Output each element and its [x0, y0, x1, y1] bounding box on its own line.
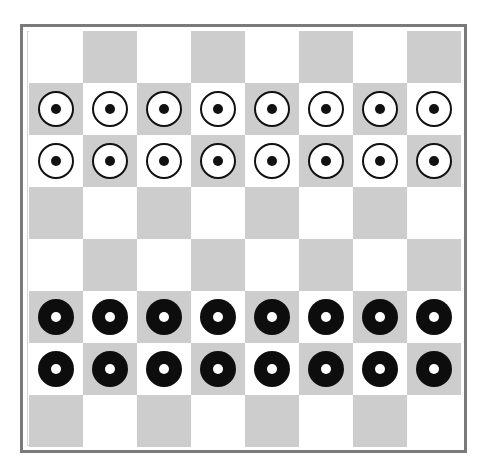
- board-square-r1-c7[interactable]: [407, 83, 461, 135]
- board-square-r3-c3[interactable]: [191, 187, 245, 239]
- black-piece-icon[interactable]: [38, 299, 74, 335]
- black-piece-icon[interactable]: [200, 351, 236, 387]
- board-square-r1-c2[interactable]: [137, 83, 191, 135]
- board-square-r0-c4[interactable]: [245, 31, 299, 83]
- board-square-r0-c7[interactable]: [407, 31, 461, 83]
- board-square-r4-c5[interactable]: [299, 239, 353, 291]
- black-piece-icon[interactable]: [362, 351, 398, 387]
- board-square-r5-c7[interactable]: [407, 291, 461, 343]
- white-piece-icon[interactable]: [38, 91, 74, 127]
- board-square-r3-c4[interactable]: [245, 187, 299, 239]
- black-piece-icon[interactable]: [416, 299, 452, 335]
- board-square-r7-c0[interactable]: [29, 395, 83, 447]
- white-piece-icon[interactable]: [200, 91, 236, 127]
- black-piece-icon[interactable]: [146, 299, 182, 335]
- black-piece-icon[interactable]: [254, 299, 290, 335]
- board-square-r7-c3[interactable]: [191, 395, 245, 447]
- board-square-r2-c1[interactable]: [83, 135, 137, 187]
- board-square-r6-c7[interactable]: [407, 343, 461, 395]
- game-board: [29, 31, 461, 447]
- white-piece-icon[interactable]: [308, 143, 344, 179]
- board-square-r1-c1[interactable]: [83, 83, 137, 135]
- board-square-r3-c1[interactable]: [83, 187, 137, 239]
- board-square-r7-c5[interactable]: [299, 395, 353, 447]
- white-piece-icon[interactable]: [362, 91, 398, 127]
- board-square-r1-c5[interactable]: [299, 83, 353, 135]
- board-square-r6-c3[interactable]: [191, 343, 245, 395]
- board-square-r7-c4[interactable]: [245, 395, 299, 447]
- white-piece-icon[interactable]: [416, 91, 452, 127]
- board-square-r2-c7[interactable]: [407, 135, 461, 187]
- board-square-r4-c3[interactable]: [191, 239, 245, 291]
- black-piece-icon[interactable]: [200, 299, 236, 335]
- white-piece-icon[interactable]: [92, 143, 128, 179]
- board-square-r0-c6[interactable]: [353, 31, 407, 83]
- board-square-r5-c1[interactable]: [83, 291, 137, 343]
- black-piece-icon[interactable]: [308, 351, 344, 387]
- board-square-r7-c7[interactable]: [407, 395, 461, 447]
- board-square-r3-c2[interactable]: [137, 187, 191, 239]
- board-square-r2-c2[interactable]: [137, 135, 191, 187]
- board-square-r7-c6[interactable]: [353, 395, 407, 447]
- white-piece-icon[interactable]: [416, 143, 452, 179]
- black-piece-icon[interactable]: [146, 351, 182, 387]
- white-piece-icon[interactable]: [92, 91, 128, 127]
- board-square-r6-c2[interactable]: [137, 343, 191, 395]
- black-piece-icon[interactable]: [362, 299, 398, 335]
- board-square-r2-c6[interactable]: [353, 135, 407, 187]
- board-square-r5-c6[interactable]: [353, 291, 407, 343]
- board-square-r7-c2[interactable]: [137, 395, 191, 447]
- board-square-r1-c4[interactable]: [245, 83, 299, 135]
- board-square-r5-c3[interactable]: [191, 291, 245, 343]
- black-piece-icon[interactable]: [92, 351, 128, 387]
- board-square-r0-c3[interactable]: [191, 31, 245, 83]
- board-square-r1-c6[interactable]: [353, 83, 407, 135]
- board-frame: [20, 24, 467, 453]
- board-square-r6-c6[interactable]: [353, 343, 407, 395]
- board-square-r3-c0[interactable]: [29, 187, 83, 239]
- black-piece-icon[interactable]: [38, 351, 74, 387]
- board-square-r2-c5[interactable]: [299, 135, 353, 187]
- black-piece-icon[interactable]: [254, 351, 290, 387]
- board-square-r4-c1[interactable]: [83, 239, 137, 291]
- board-square-r4-c0[interactable]: [29, 239, 83, 291]
- board-square-r4-c6[interactable]: [353, 239, 407, 291]
- board-square-r6-c0[interactable]: [29, 343, 83, 395]
- board-square-r6-c1[interactable]: [83, 343, 137, 395]
- white-piece-icon[interactable]: [38, 143, 74, 179]
- board-square-r0-c2[interactable]: [137, 31, 191, 83]
- black-piece-icon[interactable]: [416, 351, 452, 387]
- board-square-r2-c3[interactable]: [191, 135, 245, 187]
- board-square-r5-c2[interactable]: [137, 291, 191, 343]
- board-square-r3-c6[interactable]: [353, 187, 407, 239]
- board-square-r5-c5[interactable]: [299, 291, 353, 343]
- board-square-r3-c5[interactable]: [299, 187, 353, 239]
- board-square-r0-c0[interactable]: [29, 31, 83, 83]
- white-piece-icon[interactable]: [254, 143, 290, 179]
- board-square-r2-c0[interactable]: [29, 135, 83, 187]
- white-piece-icon[interactable]: [146, 143, 182, 179]
- black-piece-icon[interactable]: [92, 299, 128, 335]
- board-square-r1-c0[interactable]: [29, 83, 83, 135]
- board-square-r1-c3[interactable]: [191, 83, 245, 135]
- white-piece-icon[interactable]: [200, 143, 236, 179]
- board-square-r6-c4[interactable]: [245, 343, 299, 395]
- board-square-r4-c7[interactable]: [407, 239, 461, 291]
- white-piece-icon[interactable]: [362, 143, 398, 179]
- board-square-r0-c1[interactable]: [83, 31, 137, 83]
- board-square-r0-c5[interactable]: [299, 31, 353, 83]
- board-square-r6-c5[interactable]: [299, 343, 353, 395]
- board-square-r4-c4[interactable]: [245, 239, 299, 291]
- board-square-r2-c4[interactable]: [245, 135, 299, 187]
- board-square-r3-c7[interactable]: [407, 187, 461, 239]
- board-square-r4-c2[interactable]: [137, 239, 191, 291]
- board-square-r7-c1[interactable]: [83, 395, 137, 447]
- white-piece-icon[interactable]: [308, 91, 344, 127]
- white-piece-icon[interactable]: [254, 91, 290, 127]
- black-piece-icon[interactable]: [308, 299, 344, 335]
- board-square-r5-c4[interactable]: [245, 291, 299, 343]
- board-square-r5-c0[interactable]: [29, 291, 83, 343]
- white-piece-icon[interactable]: [146, 91, 182, 127]
